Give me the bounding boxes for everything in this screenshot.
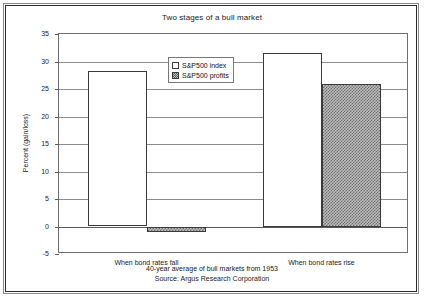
bar-index[interactable] xyxy=(88,71,147,227)
legend-item-profits[interactable]: S&P500 profits xyxy=(172,70,229,80)
y-tick-label: 25 xyxy=(19,85,49,92)
y-tick-mark xyxy=(55,117,59,118)
y-tick-mark xyxy=(55,144,59,145)
footer-source: Source: Argus Research Corporation xyxy=(0,275,424,282)
y-tick-label: 35 xyxy=(19,30,49,37)
legend-label-index: S&P500 index xyxy=(182,62,226,69)
y-tick-label: 20 xyxy=(19,113,49,120)
bar-profits[interactable] xyxy=(147,227,206,233)
y-tick-label: 10 xyxy=(19,168,49,175)
y-tick-label: 30 xyxy=(19,58,49,65)
bar-index[interactable] xyxy=(263,53,322,226)
chart-figure: Two stages of a bull market Percent (gai… xyxy=(0,0,424,299)
y-tick-mark xyxy=(55,227,59,228)
footer-note: 40-year average of bull markets from 195… xyxy=(0,265,424,272)
chart-legend: S&P500 index S&P500 profits xyxy=(168,57,234,83)
legend-label-profits: S&P500 profits xyxy=(182,72,229,79)
y-tick-mark xyxy=(55,89,59,90)
legend-item-index[interactable]: S&P500 index xyxy=(172,60,229,70)
y-tick-mark xyxy=(55,254,59,255)
bar-profits[interactable] xyxy=(322,84,381,227)
zero-line xyxy=(59,227,407,228)
y-tick-mark xyxy=(55,62,59,63)
y-tick-mark xyxy=(55,172,59,173)
chart-title: Two stages of a bull market xyxy=(0,13,424,22)
y-tick-mark xyxy=(55,34,59,35)
y-tick-label: 15 xyxy=(19,140,49,147)
y-tick-label: -5 xyxy=(19,250,49,257)
legend-swatch-index xyxy=(172,62,179,69)
legend-swatch-profits xyxy=(172,72,179,79)
y-tick-label: 5 xyxy=(19,195,49,202)
y-tick-mark xyxy=(55,199,59,200)
y-tick-label: 0 xyxy=(19,223,49,230)
